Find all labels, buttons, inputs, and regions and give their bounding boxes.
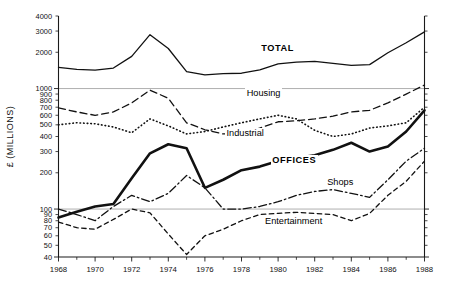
series-line-offices <box>59 110 425 217</box>
y-axis-tick-label: 2000 <box>36 48 52 57</box>
x-axis-tick-label: 1976 <box>196 265 213 274</box>
chart-container: 4050607080901002003004005006007008009001… <box>0 0 449 285</box>
y-axis-tick-label: 4000 <box>36 12 52 21</box>
series-label-offices: OFFICES <box>271 155 318 165</box>
series-label-shops: Shops <box>326 177 355 187</box>
x-axis-tick-label: 1986 <box>379 265 396 274</box>
x-axis-tick-label: 1978 <box>233 265 250 274</box>
y-axis-title: £ (MILLIONS) <box>5 106 15 168</box>
x-axis-tick-label: 1980 <box>269 265 287 274</box>
y-axis-tick-label: 400 <box>40 132 52 141</box>
x-axis-tick-label: 1974 <box>160 265 178 274</box>
series-line-total <box>59 32 425 75</box>
series-label-housing: Housing <box>245 88 282 98</box>
x-axis-tick-label: 1970 <box>86 265 104 274</box>
x-axis-tick-label: 1972 <box>123 265 140 274</box>
y-axis-tick-label: 50 <box>44 241 52 250</box>
x-axis-tick-label: 1982 <box>306 265 323 274</box>
x-axis-tick-label: 1988 <box>416 265 433 274</box>
y-axis-tick-label: 200 <box>40 168 52 177</box>
series-label-industrial: Industrial <box>225 128 265 138</box>
x-axis-tick-label: 1984 <box>343 265 361 274</box>
y-axis-tick-label: 40 <box>44 253 52 262</box>
y-axis-tick-label: 100 <box>40 205 52 214</box>
y-axis-tick-label: 500 <box>40 120 52 129</box>
series-line-shops <box>59 148 425 221</box>
line-chart-svg: 4050607080901002003004005006007008009001… <box>0 0 449 285</box>
series-label-entertainment: Entertainment <box>264 216 324 226</box>
y-axis-tick-label: 1000 <box>36 84 52 93</box>
series-line-entertainment <box>59 161 425 254</box>
y-axis-tick-label: 600 <box>40 111 52 120</box>
y-axis-tick-label: 3000 <box>36 27 52 36</box>
x-axis-tick-label: 1968 <box>50 265 67 274</box>
y-axis-tick-label: 300 <box>40 147 52 156</box>
series-label-total: TOTAL <box>260 43 296 53</box>
y-axis-tick-label: 60 <box>44 231 52 240</box>
